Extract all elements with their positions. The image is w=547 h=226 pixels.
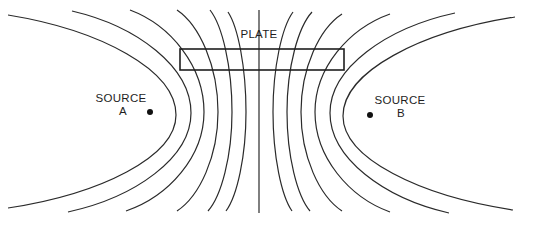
- source-a-label-line1: SOURCE: [95, 92, 146, 104]
- plate-label: PLATE: [240, 28, 277, 40]
- field-line: [301, 14, 342, 211]
- field-line: [126, 10, 204, 211]
- source-a-dot: [147, 109, 153, 115]
- source-a-label-line2: A: [119, 105, 127, 117]
- source-b-label-line1: SOURCE: [374, 94, 425, 106]
- field-line: [208, 10, 232, 211]
- field-line: [287, 12, 312, 211]
- field-line: [226, 12, 246, 211]
- field-lines: [8, 10, 515, 213]
- source-b-label-line2: B: [397, 107, 405, 119]
- field-line: [273, 12, 293, 211]
- source-b-dot: [367, 112, 373, 118]
- plate-rectangle: [180, 49, 344, 70]
- field-line: [177, 10, 218, 211]
- field-diagram: PLATE SOURCE A SOURCE B: [0, 0, 547, 226]
- field-line: [330, 13, 455, 213]
